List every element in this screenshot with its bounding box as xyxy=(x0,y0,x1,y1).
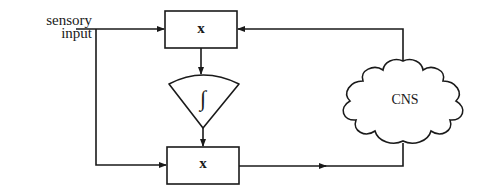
input-to-bottom-arrow xyxy=(96,29,166,165)
sensory-input-label: sensory input xyxy=(14,14,92,40)
output-to-cns-line xyxy=(320,143,403,166)
bottom-multiplier-label: x xyxy=(167,155,239,172)
integral-icon: ∫ xyxy=(190,86,216,112)
cns-label: CNS xyxy=(370,92,440,108)
cns-feedback-arrow xyxy=(238,29,403,60)
top-multiplier-label: x xyxy=(165,20,237,37)
input-label-line2: input xyxy=(14,27,92,40)
